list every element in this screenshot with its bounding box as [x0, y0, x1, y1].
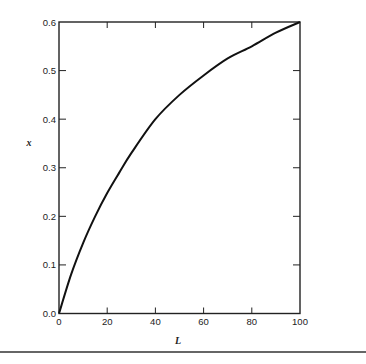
- x-tick-label: 40: [150, 316, 161, 327]
- y-tick-label: 0.2: [43, 211, 56, 222]
- y-tick-label: 0.1: [43, 259, 56, 270]
- x-axis-label: L: [174, 335, 181, 346]
- y-tick-label: 0.3: [43, 162, 56, 173]
- y-axis-label: x: [26, 137, 32, 148]
- data-line: [59, 22, 300, 314]
- y-tick-label: 0.4: [43, 114, 56, 125]
- axis-ticks: [59, 22, 300, 314]
- y-tick-label: 0.0: [43, 308, 56, 319]
- x-tick-label: 0: [56, 316, 61, 327]
- plot-border: [59, 22, 300, 314]
- y-tick-label: 0.5: [43, 65, 56, 76]
- x-tick-label: 100: [292, 316, 308, 327]
- chart: 0204060801000.00.10.20.30.40.50.6 L x: [0, 0, 366, 364]
- x-tick-label: 20: [102, 316, 113, 327]
- plot-frame: [59, 22, 300, 314]
- x-tick-label: 60: [198, 316, 209, 327]
- x-tick-label: 80: [247, 316, 258, 327]
- y-tick-label: 0.6: [43, 17, 56, 28]
- tick-labels: 0204060801000.00.10.20.30.40.50.6: [43, 17, 308, 327]
